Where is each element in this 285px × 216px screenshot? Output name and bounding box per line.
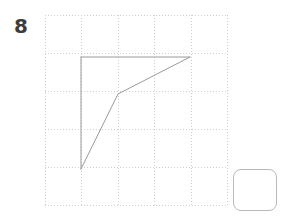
answer-box[interactable] (233, 169, 277, 211)
drawing-canvas[interactable]: 8 (0, 0, 285, 216)
stroke-hypotenuse (81, 57, 190, 169)
stroke-group (81, 57, 190, 169)
